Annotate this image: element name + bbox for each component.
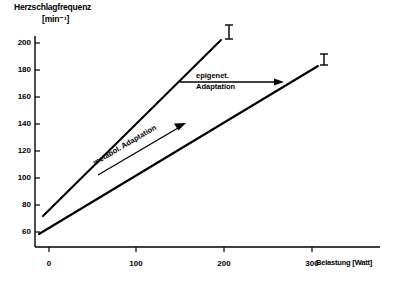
series-untrained xyxy=(43,25,233,216)
plot-canvas xyxy=(0,0,394,283)
arrow-epigenetic-adaptation xyxy=(180,78,284,85)
axes xyxy=(35,36,380,252)
series-trained xyxy=(39,54,328,234)
chart-figure: Herzschlagfrequenz [min⁻¹] Belastung [Wa… xyxy=(0,0,394,283)
